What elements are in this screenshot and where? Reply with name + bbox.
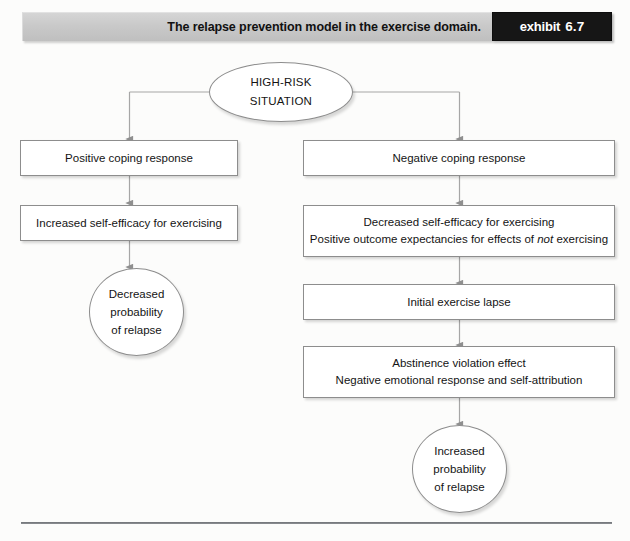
- node-line: Increased self-efficacy for exercising: [36, 215, 222, 232]
- italic-line-after: exercising: [553, 233, 608, 245]
- node-line: SITUATION: [250, 92, 312, 111]
- node-negative-coping-response[interactable]: Negative coping response: [303, 140, 615, 176]
- node-line: of relapse: [111, 321, 162, 339]
- footer-divider: [21, 522, 612, 524]
- italic-emphasis: not: [537, 233, 553, 245]
- node-line: HIGH-RISK: [250, 73, 311, 92]
- italic-line-before: Positive outcome expectancies for effect…: [310, 233, 537, 245]
- node-line: Decreased: [109, 285, 165, 303]
- node-initial-exercise-lapse[interactable]: Initial exercise lapse: [303, 284, 615, 320]
- node-positive-coping-response[interactable]: Positive coping response: [20, 140, 238, 176]
- node-increased-probability-of-relapse[interactable]: Increased probability of relapse: [412, 425, 507, 513]
- node-line: probability: [110, 303, 162, 321]
- node-line: of relapse: [434, 478, 485, 496]
- node-decreased-self-efficacy[interactable]: Decreased self-efficacy for exercising P…: [303, 205, 615, 257]
- node-high-risk-situation[interactable]: HIGH-RISK SITUATION: [209, 62, 353, 122]
- node-line: Decreased self-efficacy for exercising: [364, 214, 555, 231]
- node-abstinence-violation-effect[interactable]: Abstinence violation effect Negative emo…: [303, 346, 615, 398]
- node-line: Negative coping response: [393, 150, 526, 167]
- node-increased-self-efficacy[interactable]: Increased self-efficacy for exercising: [20, 205, 238, 241]
- node-line: Increased: [434, 442, 485, 460]
- node-line-italic: Positive outcome expectancies for effect…: [310, 231, 608, 248]
- node-line: probability: [433, 460, 485, 478]
- node-line: Initial exercise lapse: [407, 294, 511, 311]
- node-line: Positive coping response: [65, 150, 193, 167]
- node-decreased-probability-of-relapse[interactable]: Decreased probability of relapse: [89, 268, 184, 356]
- relapse-prevention-flowchart: HIGH-RISK SITUATION Positive coping resp…: [0, 0, 630, 541]
- node-line: Negative emotional response and self-att…: [336, 372, 583, 389]
- node-line: Abstinence violation effect: [392, 355, 525, 372]
